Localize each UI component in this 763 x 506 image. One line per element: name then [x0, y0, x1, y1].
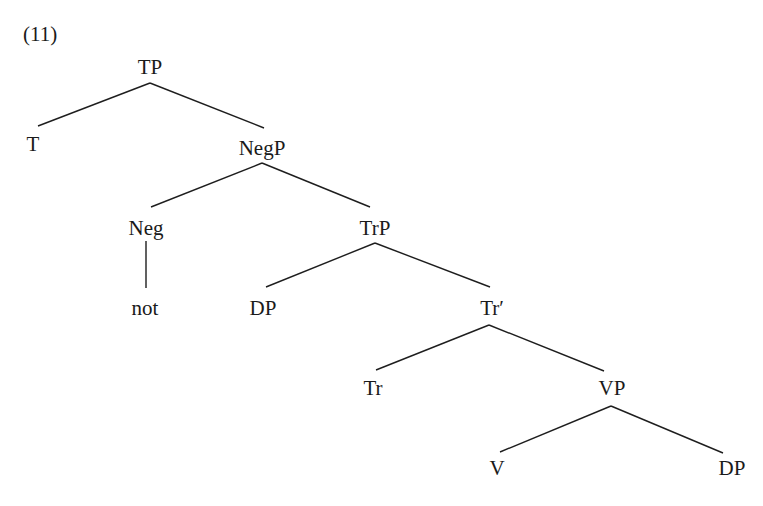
edge-tp-negp — [150, 83, 264, 128]
edge-trbar-vp — [489, 325, 604, 371]
node-tp: TP — [138, 55, 163, 79]
node-tr-bar: Tr′ — [480, 296, 504, 320]
node-dp-complement: DP — [719, 456, 746, 480]
edge-trp-trbar — [375, 243, 490, 287]
node-tr: Tr — [363, 376, 382, 400]
edge-negp-trp — [262, 163, 370, 207]
node-negp: NegP — [239, 136, 286, 160]
node-v: V — [489, 456, 504, 480]
node-neg: Neg — [129, 216, 164, 240]
edge-trp-dp1 — [266, 243, 375, 287]
edge-tp-t — [38, 83, 150, 126]
node-not: not — [132, 296, 159, 320]
tree-edges — [0, 0, 763, 506]
edge-vp-v — [500, 406, 611, 452]
edge-vp-dp2 — [611, 406, 723, 453]
edge-trbar-tr — [376, 325, 489, 370]
node-dp-spec: DP — [250, 296, 277, 320]
edge-negp-neg — [151, 163, 262, 207]
node-trp: TrP — [360, 216, 391, 240]
node-vp: VP — [599, 376, 626, 400]
node-t: T — [27, 132, 40, 156]
